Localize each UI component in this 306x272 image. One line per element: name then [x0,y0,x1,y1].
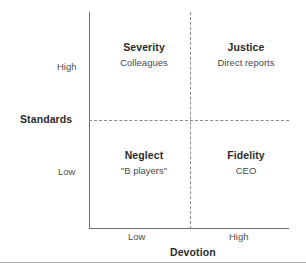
bottom-divider-rule [0,262,306,263]
quadrant-example: "B players" [96,166,192,176]
quadrant-bottom-left: Neglect "B players" [96,150,192,175]
quadrant-matrix-chart: Severity Colleagues Justice Direct repor… [0,0,306,272]
quadrant-example: Direct reports [198,58,294,68]
y-axis-title: Standards [20,113,72,125]
quadrant-example: CEO [198,166,294,176]
x-axis-tick-high: High [229,231,249,242]
quadrant-top-right: Justice Direct reports [198,42,294,67]
y-axis-tick-low: Low [58,166,75,177]
quadrant-bottom-right: Fidelity CEO [198,150,294,175]
quadrant-title: Severity [96,42,192,53]
horizontal-midline-divider [89,120,289,121]
quadrant-title: Neglect [96,150,192,161]
x-axis-tick-low: Low [128,231,145,242]
x-axis-line [89,228,289,229]
x-axis-title: Devotion [170,246,216,258]
quadrant-top-left: Severity Colleagues [96,42,192,67]
y-axis-tick-high: High [57,61,77,72]
quadrant-title: Justice [198,42,294,53]
quadrant-title: Fidelity [198,150,294,161]
quadrant-example: Colleagues [96,58,192,68]
